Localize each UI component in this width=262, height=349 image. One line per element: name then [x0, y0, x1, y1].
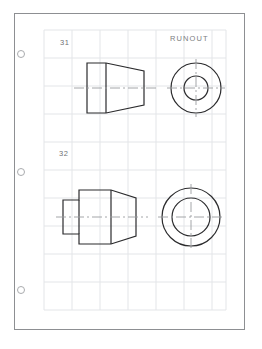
punch-hole-middle: [17, 168, 25, 176]
worksheet-root: RUNOUT 31 32: [0, 0, 262, 349]
part-label-32: 32: [59, 149, 69, 158]
punch-hole-top: [17, 50, 25, 58]
punch-hole-bottom: [17, 286, 25, 294]
runout-title: RUNOUT: [170, 34, 209, 43]
part-label-31: 31: [60, 38, 70, 47]
paper-sheet: [14, 13, 245, 330]
